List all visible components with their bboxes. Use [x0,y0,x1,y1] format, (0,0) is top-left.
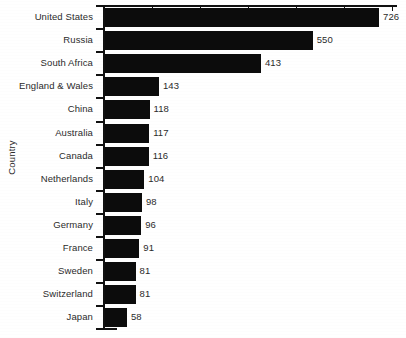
category-label: Italy [0,196,93,207]
bar-row: Switzerland81 [0,283,406,306]
bar-value-label: 104 [148,173,164,184]
bar [105,193,142,212]
category-label: Switzerland [0,288,93,299]
bar-value-label: 116 [153,150,168,161]
bar-row: Germany96 [0,214,406,237]
bar-value-label: 143 [163,80,179,91]
bar-value-label: 550 [317,34,333,45]
category-label: France [0,242,93,253]
bar-row: France91 [0,237,406,260]
bar-row: Canada116 [0,145,406,168]
category-label: United States [0,11,93,22]
bar [105,77,159,96]
bar [105,170,144,189]
bar-row: Netherlands104 [0,168,406,191]
bar-row: South Africa413 [0,52,406,75]
bar-value-label: 96 [145,219,156,230]
bar-row: Sweden81 [0,260,406,283]
category-label: Netherlands [0,173,93,184]
bar-row: England & Wales143 [0,75,406,98]
bar [105,124,149,143]
category-label: Russia [0,34,93,45]
bar-value-label: 726 [383,11,399,22]
bar-value-label: 118 [154,103,169,114]
category-label: Canada [0,150,93,161]
category-label: Japan [0,311,93,322]
bar [105,262,136,281]
bar-value-label: 413 [265,57,281,68]
bar-row: Australia117 [0,122,406,145]
bar-row: Russia550 [0,29,406,52]
bar-value-label: 81 [140,265,151,276]
bar [105,285,136,304]
bar [105,147,149,166]
bar [105,31,313,50]
bar-value-label: 58 [131,311,142,322]
bar [105,216,141,235]
bar [105,100,150,119]
bar-value-label: 117 [153,127,168,138]
bar [105,54,261,73]
bar [105,8,379,27]
bar [105,308,127,327]
category-label: South Africa [0,57,93,68]
bar-row: United States726 [0,6,406,29]
bar-row: Italy98 [0,191,406,214]
category-label: China [0,103,93,114]
category-label: Germany [0,219,93,230]
category-label: England & Wales [0,80,93,91]
bar [105,239,139,258]
bar-value-label: 91 [143,242,154,253]
bar-value-label: 81 [140,288,151,299]
category-label: Australia [0,127,93,138]
bar-value-label: 98 [146,196,157,207]
bar-row: China118 [0,98,406,121]
category-label: Sweden [0,265,93,276]
bar-chart: Country United States726Russia550South A… [0,0,406,338]
bar-row: Japan58 [0,306,406,329]
